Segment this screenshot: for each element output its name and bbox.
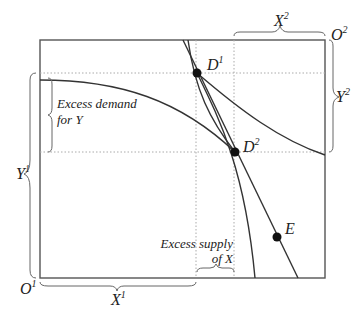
label-d2: D2 [242,136,260,155]
label-excess-supply-2: of X [212,251,234,266]
label-excess-demand-1: Excess demand [56,96,137,111]
point-d1 [193,69,202,78]
point-d2 [231,148,240,157]
label-o2: O2 [331,24,348,43]
label-e: E [284,220,295,237]
label-y2: Y2 [336,86,350,105]
label-x1: X1 [110,289,126,308]
label-excess-demand-2: for Y [57,112,84,127]
label-o1: O1 [20,278,37,297]
label-excess-supply-1: Excess supply [159,236,233,251]
edgeworth-box-diagram: D1 D2 E O2 X2 Y2 Y1 O1 X1 Excess demand … [0,0,364,317]
brace-excess-demand [48,78,52,152]
point-e [273,233,282,242]
brace-y1 [24,73,36,278]
label-d1: D1 [206,54,224,73]
brace-x1 [40,282,196,291]
label-x2: X2 [273,10,289,29]
label-y1: Y1 [16,163,30,182]
